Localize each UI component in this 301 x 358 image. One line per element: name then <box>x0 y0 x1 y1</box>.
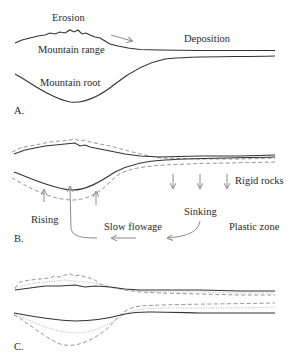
base-stage-1-dashed <box>14 303 275 345</box>
panel-c-drawing <box>14 274 275 345</box>
surface-stage-3-solid <box>15 285 275 291</box>
panel-label-b: B. <box>14 234 24 245</box>
base-stage-2-dotted <box>14 307 275 333</box>
label-erosion: Erosion <box>52 13 85 24</box>
label-rigid-rocks: Rigid rocks <box>235 176 284 187</box>
label-rising: Rising <box>31 215 58 226</box>
label-deposition: Deposition <box>184 34 230 45</box>
erosion-arrow-icon <box>111 35 132 41</box>
label-mountain-range: Mountain range <box>38 45 105 56</box>
base-stage-3-solid <box>14 312 275 321</box>
label-slow-flowage: Slow flowage <box>104 222 162 233</box>
panel-a-drawing <box>15 30 275 102</box>
label-plastic-zone: Plastic zone <box>229 222 279 233</box>
label-sinking: Sinking <box>184 207 217 218</box>
label-mountain-root: Mountain root <box>40 78 100 89</box>
panel-label-c: C. <box>14 342 24 353</box>
panel-label-a: A. <box>14 106 24 117</box>
surface-stage-1-dashed <box>15 274 275 295</box>
flowage-loop-arrow-icon <box>168 221 200 238</box>
isostasy-diagram: Erosion Mountain range Deposition Mounta… <box>0 0 301 358</box>
